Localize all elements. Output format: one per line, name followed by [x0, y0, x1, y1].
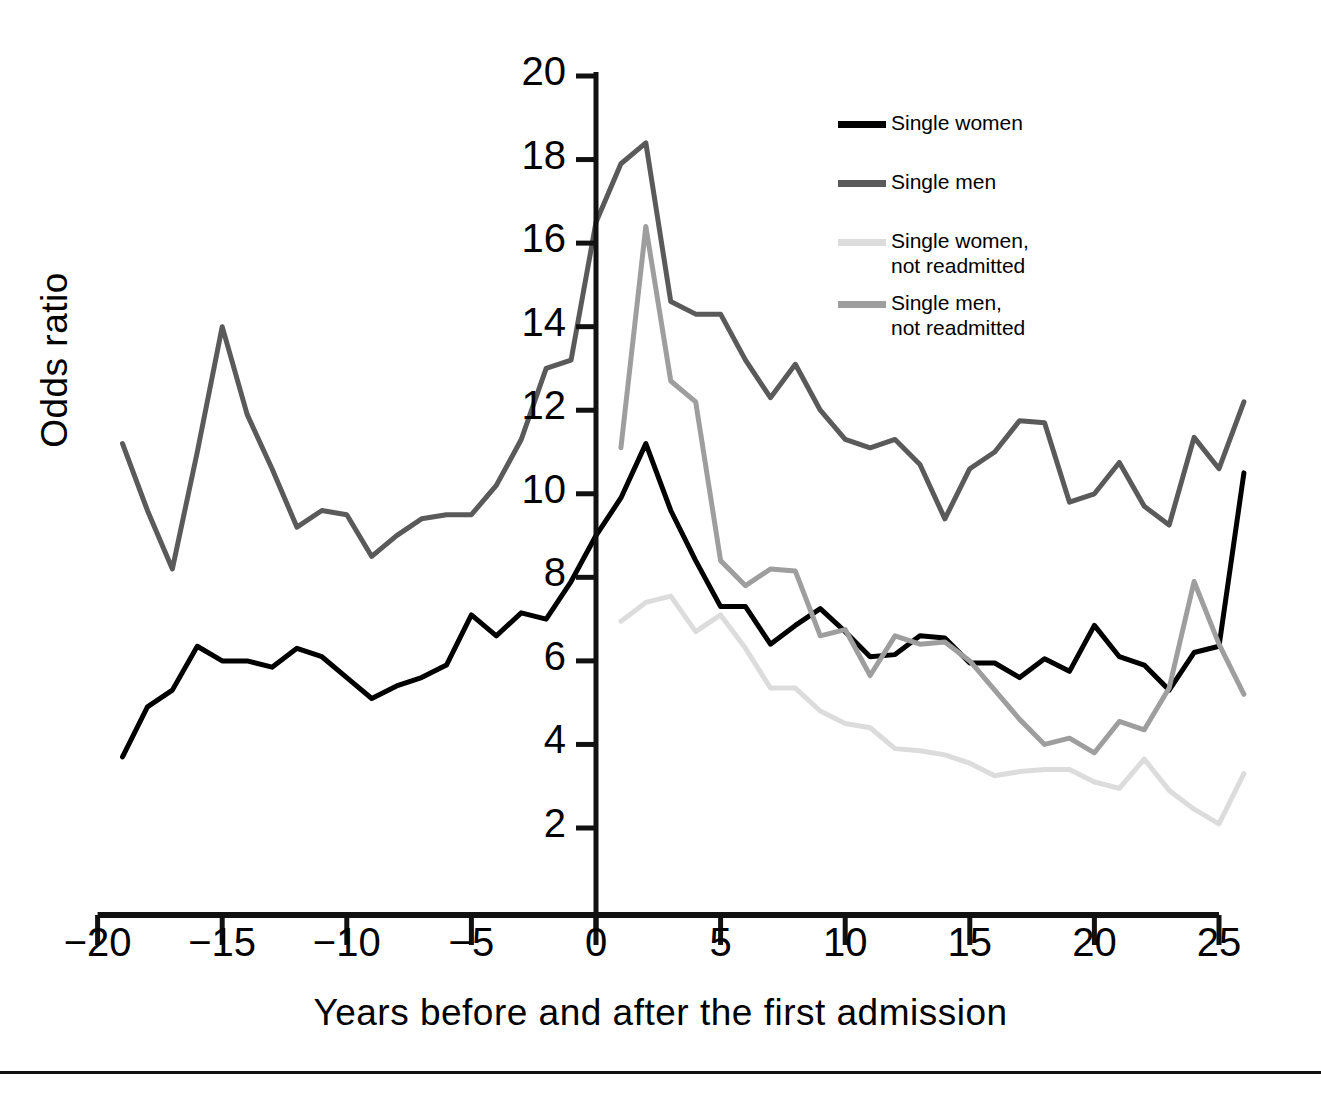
chart-figure: Odds ratio Years before and after the fi… [0, 0, 1321, 1096]
x-tick-label: 15 [910, 920, 1030, 965]
legend-label-single-women: Single women [891, 110, 1023, 135]
x-tick-label: 25 [1159, 920, 1279, 965]
y-tick-label: 4 [446, 717, 566, 762]
x-tick-label: −15 [162, 920, 282, 965]
x-tick-label: −5 [411, 920, 531, 965]
y-tick-label: 12 [446, 383, 566, 428]
legend-label-single-women-not-readmitted: Single women, not readmitted [891, 228, 1029, 278]
legend-swatch-single-men-not-readmitted [838, 301, 886, 308]
legend-swatch-single-men [838, 180, 886, 187]
series-line-single-women-not-readmitted [621, 596, 1244, 824]
y-tick-label: 18 [446, 133, 566, 178]
x-tick-label: 0 [536, 920, 656, 965]
legend-item-1: Single men [838, 169, 996, 194]
y-tick-label: 14 [446, 300, 566, 345]
x-tick-label: 20 [1034, 920, 1154, 965]
legend-swatch-single-women-not-readmitted [838, 239, 886, 246]
y-tick-label: 6 [446, 634, 566, 679]
x-tick-label: 10 [785, 920, 905, 965]
y-axis-title: Odds ratio [25, 245, 85, 475]
legend-item-2: Single women, not readmitted [838, 228, 1029, 278]
x-tick-label: −20 [38, 920, 158, 965]
legend-item-0: Single women [838, 110, 1023, 135]
y-tick-label: 10 [446, 467, 566, 512]
chart-legend: Single women Single men Single women, no… [838, 96, 1128, 332]
legend-swatch-single-women [838, 121, 886, 128]
y-tick-label: 16 [446, 216, 566, 261]
series-line-single-women [123, 444, 1244, 757]
page-bottom-rule [0, 1071, 1321, 1074]
legend-item-3: Single men, not readmitted [838, 290, 1025, 340]
x-tick-label: 5 [661, 920, 781, 965]
y-tick-label: 2 [446, 801, 566, 846]
legend-label-single-men-not-readmitted: Single men, not readmitted [891, 290, 1025, 340]
x-tick-label: −10 [287, 920, 407, 965]
y-tick-label: 8 [446, 550, 566, 595]
legend-label-single-men: Single men [891, 169, 996, 194]
y-tick-label: 20 [446, 49, 566, 94]
x-axis-title: Years before and after the first admissi… [0, 992, 1321, 1034]
